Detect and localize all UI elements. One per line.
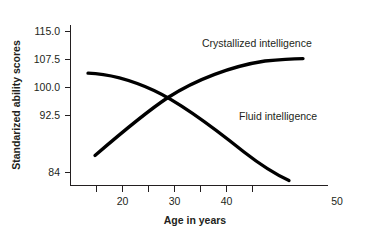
y-tick-label-100: 100.0 [34,81,60,93]
y-tick-label-107-5: 107.5 [34,53,60,65]
y-tick-label-92-5: 92.5 [40,109,61,121]
y-tick-label-84: 84 [48,166,60,178]
x-tick-label-50: 50 [331,195,343,207]
y-tick-label-115: 115.0 [35,25,61,37]
chart-figure: 115.0 107.5 100.0 92.5 84 20 30 40 50 Ag… [0,0,368,238]
annotation-fluid: Fluid intelligence [239,110,317,122]
x-tick-label-30: 30 [169,195,181,207]
x-axis-title: Age in years [164,214,227,226]
annotation-crystallized: Crystallized intelligence [202,37,312,49]
x-tick-label-20: 20 [117,195,129,207]
y-axis-title: Standarized ability scores [10,40,22,170]
chart-canvas: 115.0 107.5 100.0 92.5 84 20 30 40 50 Ag… [0,0,368,238]
x-tick-label-40: 40 [221,195,233,207]
